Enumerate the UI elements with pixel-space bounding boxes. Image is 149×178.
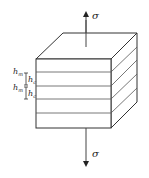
cube-front-face xyxy=(36,59,111,128)
top-stress-label: σ xyxy=(92,10,100,21)
bottom-stress-label: σ xyxy=(92,148,100,159)
label-hc-1: hc xyxy=(28,75,36,85)
laminate-diagram: σ hm hc hm hc σ xyxy=(0,0,149,178)
label-hc-2: hc xyxy=(28,89,36,99)
diagram-svg: σ hm hc hm hc σ xyxy=(0,0,149,178)
label-hm-2: hm xyxy=(13,83,23,93)
label-hm-1: hm xyxy=(13,67,23,77)
